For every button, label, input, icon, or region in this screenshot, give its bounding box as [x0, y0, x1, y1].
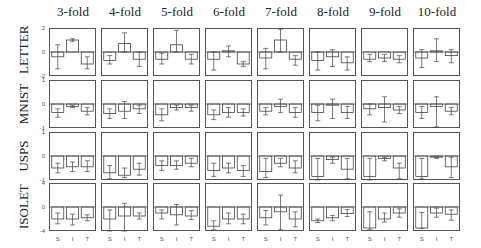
bar-panel [101, 80, 148, 128]
row-title: LETTER [16, 30, 32, 74]
y-tick-label: 2 [33, 25, 45, 31]
row-title: ISOLET [16, 185, 32, 229]
x-tick-label: I [224, 236, 234, 242]
bar-panel [49, 28, 96, 76]
column-title: 4-fold [99, 4, 151, 20]
y-tick-label: -4 [33, 228, 45, 234]
x-tick-label: S [313, 236, 323, 242]
x-tick-label: I [276, 236, 286, 242]
bar-panel [205, 80, 252, 128]
bar-panel [101, 28, 148, 76]
x-tick-label: S [209, 236, 219, 242]
bar-panel [101, 183, 148, 231]
x-tick-label: S [261, 236, 271, 242]
x-tick-label: T [394, 236, 404, 242]
bar-panel [413, 80, 460, 128]
bar-panel [309, 132, 356, 180]
bar-panel [153, 28, 200, 76]
bar-panel [413, 183, 460, 231]
bar-panel [257, 80, 304, 128]
x-tick-label: T [186, 236, 196, 242]
y-tick-label: 1 [33, 77, 45, 83]
x-tick-label: T [342, 236, 352, 242]
x-tick-label: I [68, 236, 78, 242]
bar-panel [49, 183, 96, 231]
bar-panel [101, 132, 148, 180]
column-title: 10-fold [411, 4, 463, 20]
x-tick-label: I [172, 236, 182, 242]
x-tick-label: S [157, 236, 167, 242]
x-tick-label: S [105, 236, 115, 242]
bar-panel [309, 28, 356, 76]
y-tick-label: 0 [33, 49, 45, 55]
figure: 3-fold4-fold5-fold6-fold7-fold8-fold9-fo… [0, 0, 481, 248]
bar-panel [413, 28, 460, 76]
y-tick-label: 1 [33, 129, 45, 135]
x-tick-label: T [238, 236, 248, 242]
bar-panel [361, 132, 408, 180]
x-tick-label: I [380, 236, 390, 242]
bar-panel [309, 183, 356, 231]
bar-panel [49, 132, 96, 180]
x-tick-label: S [53, 236, 63, 242]
bar-panel [257, 132, 304, 180]
bar-panel [49, 80, 96, 128]
bar-panel [205, 28, 252, 76]
column-title: 7-fold [255, 4, 307, 20]
column-title: 5-fold [151, 4, 203, 20]
bar-panel [153, 132, 200, 180]
y-tick-label: 0 [33, 101, 45, 107]
bar-panel [257, 183, 304, 231]
x-tick-label: I [432, 236, 442, 242]
column-title: 3-fold [47, 4, 99, 20]
bar-panel [257, 28, 304, 76]
x-tick-label: T [134, 236, 144, 242]
bar-panel [309, 80, 356, 128]
x-tick-label: I [328, 236, 338, 242]
row-title: MNIST [16, 82, 32, 126]
bar-panel [361, 80, 408, 128]
x-tick-label: I [120, 236, 130, 242]
bar-panel [205, 132, 252, 180]
x-tick-label: T [290, 236, 300, 242]
x-tick-label: S [417, 236, 427, 242]
column-title: 8-fold [307, 4, 359, 20]
bar-panel [413, 132, 460, 180]
x-tick-label: T [82, 236, 92, 242]
row-title: USPS [16, 134, 32, 178]
column-title: 6-fold [203, 4, 255, 20]
bar-panel [205, 183, 252, 231]
x-tick-label: S [365, 236, 375, 242]
bar-panel [153, 80, 200, 128]
x-tick-label: T [446, 236, 456, 242]
y-tick-label: 0 [33, 153, 45, 159]
column-title: 9-fold [359, 4, 411, 20]
y-tick-label: 0 [33, 204, 45, 210]
y-tick-label: 4 [33, 180, 45, 186]
bar-panel [361, 28, 408, 76]
bar-panel [153, 183, 200, 231]
bar-panel [361, 183, 408, 231]
